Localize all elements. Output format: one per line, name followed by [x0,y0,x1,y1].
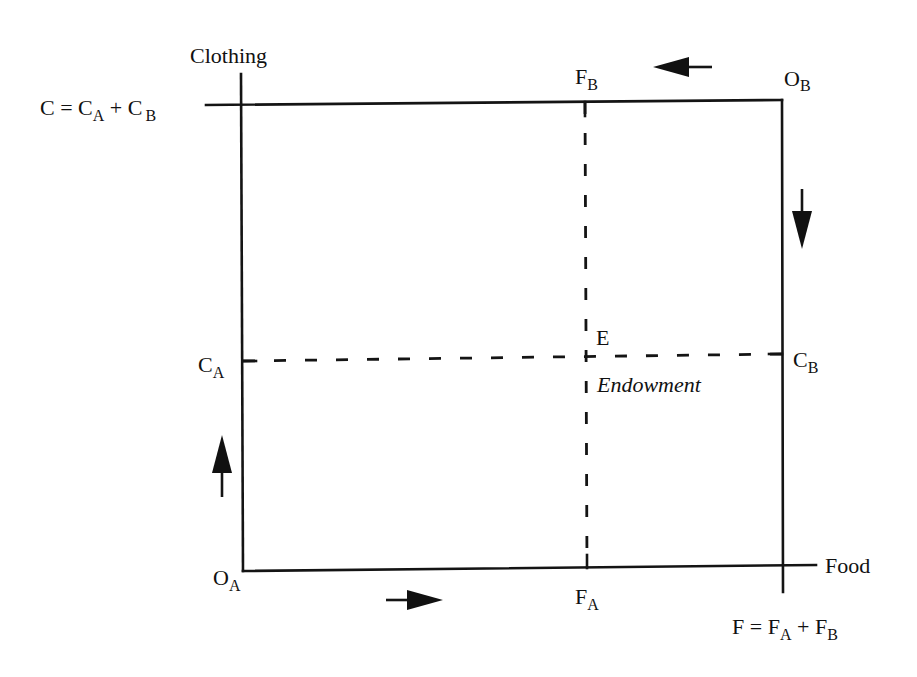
food-b-main: F [575,64,587,89]
arrow-left-head-icon [653,57,689,77]
total-clothing-plus: + [104,95,127,120]
arrow-down-right [792,189,812,249]
arrow-down-head-icon [792,211,812,249]
total-clothing-t2-sub: B [145,107,156,124]
total-food-t1-sub: A [780,626,792,643]
total-food-eq: = [744,614,767,639]
total-food-label: F = FA + FB [732,614,838,643]
total-food-lhs: F [732,614,744,639]
total-clothing-t1-sub: A [93,107,105,124]
total-clothing-t1: C [78,95,93,120]
food-a-sub: A [587,596,599,613]
total-food-t1: F [768,614,780,639]
total-food-t2-sub: B [827,626,838,643]
origin-a-label: OA [213,565,241,594]
origin-b-sub: B [800,77,811,94]
right-edge [782,100,783,592]
clothing-b-label: CB [793,347,818,376]
endowment-horizontal-guide [243,354,782,361]
endowment-guides [243,102,782,568]
arrow-right-head-icon [407,590,443,610]
arrow-right-bottom [386,590,443,610]
total-clothing-label: C = CA + CB [40,95,156,124]
clothing-b-main: C [793,347,808,372]
endowment-vertical-guide [585,102,587,568]
total-clothing-eq: = [55,95,78,120]
food-axis-a [243,565,816,571]
endowment-caption: Endowment [596,372,702,397]
clothing-axis-label: Clothing [190,43,267,68]
clothing-a-sub: A [213,364,225,381]
arrow-up-head-icon [212,435,232,473]
total-clothing-lhs: C [40,95,55,120]
total-food-plus: + [791,614,814,639]
food-axis-label: Food [825,553,870,578]
clothing-axis-a [241,74,243,571]
clothing-a-label: CA [198,352,225,381]
food-b-label: FB [575,64,598,93]
origin-a-sub: A [229,577,241,594]
food-b-sub: B [587,76,598,93]
total-clothing-t2: C [128,95,143,120]
arrow-up-left [212,435,232,497]
origin-b-main: O [784,66,800,91]
clothing-b-sub: B [808,359,819,376]
edgeworth-box-diagram: Clothing Food C = CA + CB FB OB CA CB E … [0,0,917,677]
clothing-a-main: C [198,352,213,377]
origin-a-main: O [213,565,229,590]
total-food-t2: F [815,614,827,639]
food-a-label: FA [575,584,599,613]
box-frame [206,74,816,592]
endowment-point-label: E [596,325,609,350]
origin-b-label: OB [784,66,811,94]
top-edge [206,100,782,105]
arrow-left-top [653,57,712,77]
food-a-main: F [575,584,587,609]
